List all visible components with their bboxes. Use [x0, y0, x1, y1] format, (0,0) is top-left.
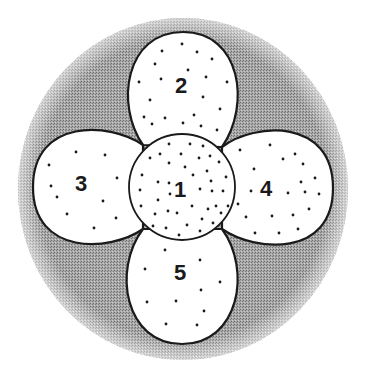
petal-dot — [149, 99, 152, 102]
petal-dot — [116, 177, 119, 180]
petal-dot — [237, 203, 240, 206]
center-dot — [154, 213, 157, 216]
petal-dot — [287, 192, 290, 195]
petal-dot — [48, 164, 51, 167]
petal-dot — [154, 63, 157, 66]
petal-outline-bottom — [127, 229, 238, 344]
petal-dot — [164, 249, 167, 252]
petal-dot — [205, 76, 208, 79]
petal-dot — [294, 153, 297, 156]
petal-dot — [104, 154, 107, 157]
petal-dot — [250, 190, 253, 193]
petal-dot — [245, 216, 248, 219]
center-dot — [180, 153, 183, 156]
center-dot — [199, 230, 202, 233]
petal-dot — [219, 281, 222, 284]
center-dot — [201, 218, 204, 221]
petal-dot — [93, 227, 96, 230]
center-dot — [218, 161, 221, 164]
center-dot — [189, 143, 192, 146]
petal-dot — [304, 191, 307, 194]
center-dot — [176, 212, 179, 215]
petal-region-4 — [222, 130, 333, 244]
petal-region-5 — [127, 229, 238, 344]
center-dot — [222, 190, 225, 193]
center-dot — [210, 180, 213, 183]
center-dot — [168, 143, 171, 146]
center-dot — [157, 181, 160, 184]
center-dot — [200, 125, 203, 128]
petal-dot — [203, 310, 206, 313]
center-dot — [168, 182, 171, 185]
petal-dot — [143, 116, 146, 119]
petal-dot — [278, 232, 281, 235]
petal-dot — [239, 149, 242, 152]
center-dot — [191, 205, 194, 208]
center-dot — [169, 193, 172, 196]
center-dot — [225, 176, 228, 179]
center-dot — [182, 122, 185, 125]
center-dot — [198, 157, 201, 160]
center-dot — [178, 234, 181, 237]
center-dot — [152, 225, 155, 228]
center-dot — [139, 189, 142, 192]
petal-outline-right — [222, 130, 333, 244]
petal-dot — [181, 43, 184, 46]
center-dot — [167, 210, 170, 213]
petal-dot — [216, 129, 219, 132]
center-dot — [168, 162, 171, 165]
petal-dot — [314, 177, 317, 180]
petal-dot — [318, 193, 321, 196]
center-dot — [140, 205, 143, 208]
petal-dot — [200, 289, 203, 292]
petal-dot — [161, 50, 164, 53]
petal-dot — [196, 51, 199, 54]
center-dot — [215, 205, 218, 208]
petal-dot — [269, 144, 272, 147]
petal-dot — [56, 196, 59, 199]
center-dot — [199, 188, 202, 191]
petal-dot — [164, 117, 167, 120]
center-dot — [151, 123, 154, 126]
center-dot — [206, 170, 209, 173]
center-dot — [212, 222, 215, 225]
petal-dot — [115, 217, 118, 220]
petal-dot — [146, 301, 149, 304]
petal-dot — [202, 96, 205, 99]
petal-dot — [75, 151, 78, 154]
petal-dot — [50, 185, 53, 188]
petal-dot — [187, 69, 190, 72]
center-dot — [141, 174, 144, 177]
petal-region-2 — [128, 32, 238, 147]
petal-region-3 — [33, 130, 143, 244]
petal-dot — [102, 200, 105, 203]
petal-dot — [144, 268, 147, 271]
center-dot — [202, 145, 205, 148]
five-region-diagram — [0, 0, 365, 373]
petal-dot — [175, 300, 178, 303]
center-dot — [159, 153, 162, 156]
center-dot — [220, 212, 223, 215]
center-dot — [227, 205, 230, 208]
petal-dot — [160, 78, 163, 81]
petal-dot — [196, 324, 199, 327]
petal-dot — [271, 215, 274, 218]
center-dot — [186, 224, 189, 227]
petal-dot — [199, 259, 202, 262]
petal-dot — [219, 108, 222, 111]
center-dot — [192, 174, 195, 177]
petal-dot — [297, 228, 300, 231]
petal-dot — [165, 323, 168, 326]
petal-outline-top — [128, 32, 238, 147]
petal-dot — [308, 208, 311, 211]
center-dot — [207, 208, 210, 211]
petal-dot — [302, 163, 305, 166]
center-dot — [165, 227, 168, 230]
center-dot — [209, 155, 212, 158]
petal-dot — [292, 214, 295, 217]
petal-dot — [193, 114, 196, 117]
petal-dot — [254, 232, 257, 235]
center-circle — [129, 134, 235, 240]
center-dot — [184, 166, 187, 169]
petal-dot — [138, 81, 141, 84]
